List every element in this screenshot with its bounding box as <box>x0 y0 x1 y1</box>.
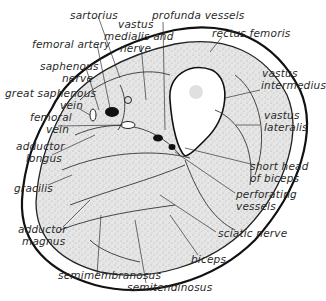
label-great-saphenous-vein-1: great saphenous <box>5 87 96 99</box>
label-vastus-lateralis-2: lateralis <box>264 121 308 133</box>
label-short-head-biceps-1: short head <box>250 160 309 172</box>
label-gracilis: gracilis <box>14 182 53 194</box>
label-sciatic-nerve: sciatic nerve <box>218 227 287 239</box>
label-adductor-magnus-1: adductor <box>18 223 67 235</box>
label-vastus-intermedius-2: intermedius <box>261 79 326 91</box>
label-short-head-biceps-2: of biceps <box>250 172 299 184</box>
label-adductor-longus-1: adductor <box>16 140 65 152</box>
label-semimembranosus: semimembranosus <box>58 269 161 281</box>
label-femoral-vein-1: femoral <box>30 111 72 123</box>
label-rectus-femoris: rectus femoris <box>212 27 290 39</box>
label-sartorius: sartorius <box>70 9 118 21</box>
label-saphenous-nerve-1: saphenous <box>40 60 99 72</box>
label-femoral-artery: femoral artery <box>32 38 110 50</box>
label-vastus-medialis-1: vastus <box>118 18 154 30</box>
label-adductor-longus-2: longus <box>26 152 62 164</box>
label-vastus-lateralis-1: vastus <box>264 109 300 121</box>
label-vastus-medialis-3: nerve <box>120 42 151 54</box>
label-great-saphenous-vein-2: vein <box>60 99 83 111</box>
label-profunda-vessels: profunda vessels <box>152 9 245 21</box>
label-semitendinosus: semitendinosus <box>127 281 212 293</box>
label-saphenous-nerve-2: nerve <box>62 72 93 84</box>
label-perforating-vessels-2: vessels <box>236 200 276 212</box>
label-vastus-intermedius-1: vastus <box>262 67 298 79</box>
label-femoral-vein-2: vein <box>46 123 69 135</box>
label-biceps: biceps <box>191 253 226 265</box>
label-perforating-vessels-1: perforating <box>236 188 297 200</box>
label-adductor-magnus-2: magnus <box>22 235 65 247</box>
label-vastus-medialis-2: medialis and <box>104 30 174 42</box>
